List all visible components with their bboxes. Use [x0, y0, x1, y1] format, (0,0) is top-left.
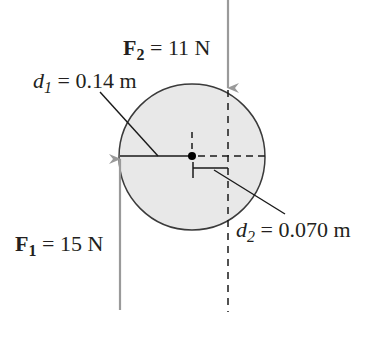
torque-diagram: F2 = 11 N d1 = 0.14 m d2 = 0.070 m F1 = … — [0, 0, 392, 339]
label-d2: d2 = 0.070 m — [236, 217, 351, 245]
f2-value: 11 N — [168, 35, 211, 60]
d1-equals: = — [52, 68, 75, 93]
label-d1: d1 = 0.14 m — [33, 68, 137, 96]
label-f1: F1 = 15 N — [15, 231, 103, 259]
f2-symbol: F — [123, 35, 136, 60]
f1-equals: = — [36, 231, 59, 256]
d1-subscript: 1 — [44, 79, 52, 96]
axis-point — [188, 152, 196, 160]
f1-symbol: F — [15, 231, 28, 256]
f1-subscript: 1 — [28, 242, 36, 259]
label-f2: F2 = 11 N — [123, 35, 211, 63]
d2-subscript: 2 — [247, 228, 255, 245]
d2-value: 0.070 m — [278, 217, 350, 242]
d2-equals: = — [255, 217, 278, 242]
f2-subscript: 2 — [136, 46, 144, 63]
d1-value: 0.14 m — [75, 68, 136, 93]
f2-equals: = — [144, 35, 167, 60]
f1-value: 15 N — [60, 231, 104, 256]
